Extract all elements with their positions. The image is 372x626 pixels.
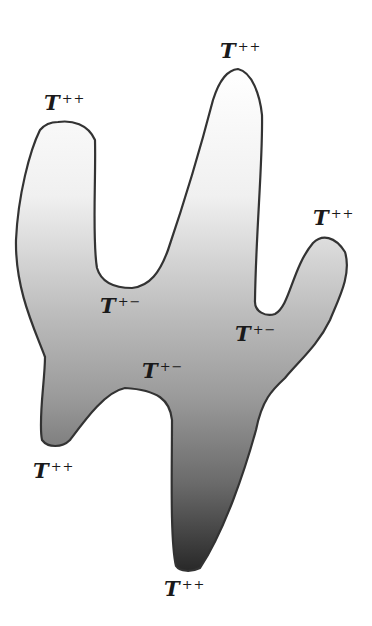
label-base: T (220, 38, 236, 63)
label-saddle-left: T+− (100, 295, 141, 316)
label-base: T (313, 205, 329, 230)
label-peak-bottom: T++ (164, 578, 205, 599)
label-superscript: ++ (62, 91, 86, 106)
label-base: T (142, 358, 158, 383)
label-superscript: ++ (182, 577, 206, 592)
label-peak-bottom-left: T++ (33, 460, 74, 481)
label-base: T (44, 90, 60, 115)
label-superscript: ++ (331, 206, 355, 221)
label-superscript: +− (253, 322, 277, 337)
label-peak-top-left: T++ (44, 92, 85, 113)
label-superscript: ++ (51, 459, 75, 474)
label-saddle-center: T+− (142, 360, 183, 381)
label-superscript: +− (160, 359, 184, 374)
label-base: T (164, 576, 180, 601)
label-saddle-right: T+− (235, 323, 276, 344)
label-base: T (100, 293, 116, 318)
label-peak-top-center: T++ (220, 40, 261, 61)
label-base: T (33, 458, 49, 483)
label-superscript: +− (118, 294, 142, 309)
label-base: T (235, 321, 251, 346)
label-peak-right: T++ (313, 207, 354, 228)
region-outline (16, 69, 347, 571)
label-superscript: ++ (238, 39, 262, 54)
